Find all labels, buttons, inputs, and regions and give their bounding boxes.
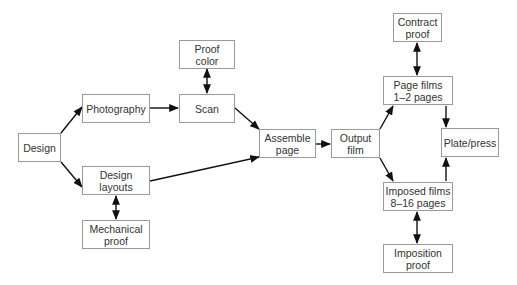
node-label: film [347,144,363,156]
node-label: proof [406,28,430,40]
node-proof-color: Proof color [179,40,235,69]
node-assemble-page: Assemble page [259,129,316,158]
node-label: Proof [194,43,219,55]
node-label: Page films [393,79,442,91]
node-label: Scan [195,103,219,115]
node-label: Contract [398,16,438,28]
node-label: Photography [86,103,146,115]
node-label: layouts [99,181,132,193]
node-label: page [276,144,299,156]
node-imposition-proof: Imposition proof [383,244,453,273]
edge-design-design-layouts [61,162,82,187]
node-label: Design [23,142,56,154]
node-design: Design [18,133,61,162]
node-label: Imposition [394,247,442,259]
node-label: 8–16 pages [391,197,446,209]
node-label: Assemble [264,132,310,144]
node-label: proof [104,235,128,247]
node-page-films: Page films 1–2 pages [383,76,453,105]
node-photography: Photography [82,94,150,123]
node-label: Mechanical [89,223,142,235]
node-label: Output [340,132,372,144]
node-label: Imposed films [386,185,451,197]
node-imposed-films: Imposed films 8–16 pages [383,182,453,211]
edge-scan-assemble [235,108,259,129]
node-label: 1–2 pages [393,91,442,103]
edge-output-imposed [380,158,393,181]
node-plate-press: Plate/press [441,128,499,157]
printing-workflow-diagram: Design Photography Scan Proof color Desi… [0,0,517,285]
node-contract-proof: Contract proof [393,13,442,42]
edge-layouts-assemble [150,157,259,181]
node-label: proof [406,259,430,271]
edge-design-photography [61,107,82,133]
node-label: color [196,55,219,67]
node-mechanical-proof: Mechanical proof [82,220,150,249]
node-scan: Scan [179,94,235,123]
node-output-film: Output film [331,129,380,158]
node-label: Design [100,169,133,181]
node-label: Plate/press [444,137,497,149]
node-design-layouts: Design layouts [82,166,150,195]
edge-output-pagefilms [380,106,393,129]
